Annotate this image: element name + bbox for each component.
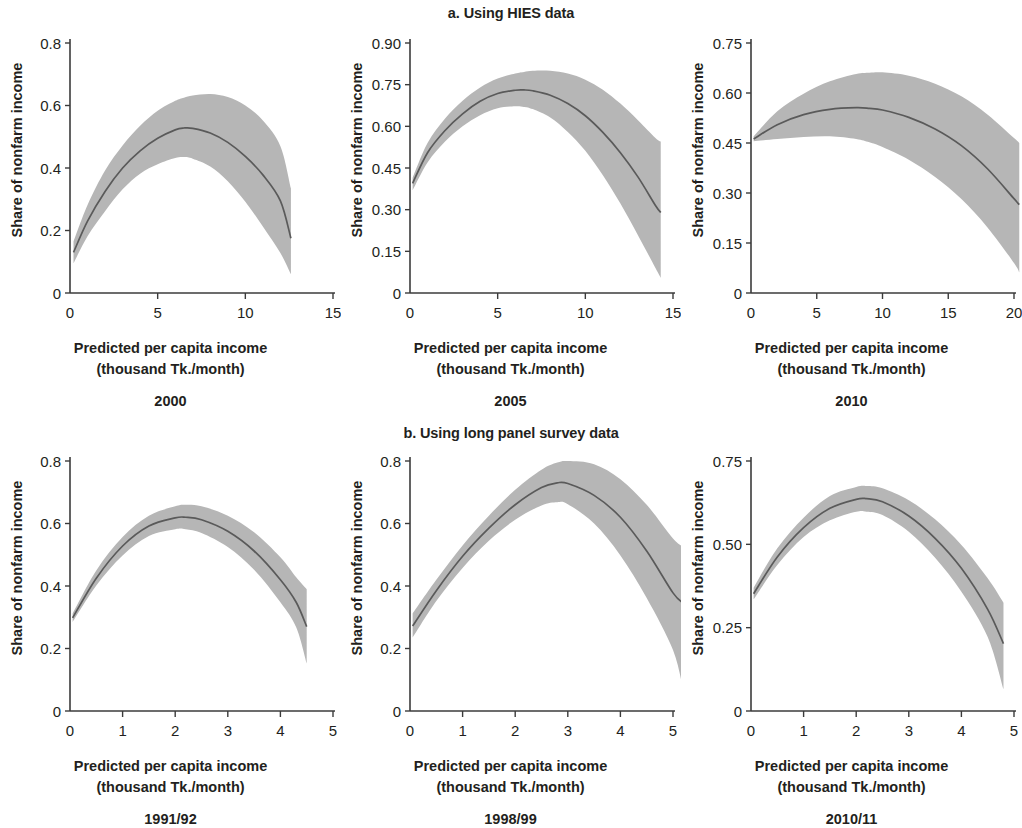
- y-tick-label: 0.60: [713, 85, 742, 102]
- x-tick-label: 5: [669, 722, 677, 739]
- chart-panel-1991-92: 00.20.40.60.8012345Share of nonfarm inco…: [0, 443, 341, 828]
- y-tick-label: 0.25: [713, 619, 742, 636]
- y-tick-label: 0.45: [713, 135, 742, 152]
- x-tick-label: 5: [813, 304, 821, 321]
- x-axis-title-line2: (thousand Tk./month): [0, 777, 341, 798]
- x-tick-label: 5: [329, 722, 337, 739]
- confidence-interval-band: [754, 486, 1004, 690]
- x-axis-title-line2: (thousand Tk./month): [340, 777, 681, 798]
- y-axis-title: Share of nonfarm income: [690, 63, 706, 238]
- panel-year-label: 1998/99: [340, 811, 681, 827]
- section-a-title: a. Using HIES data: [0, 5, 1022, 21]
- x-axis-title-line2: (thousand Tk./month): [681, 359, 1022, 380]
- y-tick-label: 0: [53, 703, 61, 720]
- y-tick-label: 0.4: [40, 578, 61, 595]
- x-axis-title: Predicted per capita income(thousand Tk.…: [681, 756, 1022, 798]
- panel-year-label: 2010: [681, 393, 1022, 409]
- y-tick-label: 0.4: [380, 578, 401, 595]
- x-tick-label: 5: [493, 304, 501, 321]
- panel-year-label: 1991/92: [0, 811, 341, 827]
- chart-svg: 00.20.40.60.8012345Share of nonfarm inco…: [0, 443, 341, 773]
- x-tick-label: 0: [406, 304, 414, 321]
- confidence-interval-band: [754, 72, 1020, 272]
- x-tick-label: 10: [577, 304, 594, 321]
- x-tick-label: 20: [1006, 304, 1022, 321]
- y-tick-label: 0.2: [40, 640, 61, 657]
- panel-year-label: 2000: [0, 393, 341, 409]
- panel-year-label: 2010/11: [681, 811, 1022, 827]
- y-tick-label: 0.45: [372, 160, 401, 177]
- chart-svg: 00.150.300.450.600.7505101520Share of no…: [681, 25, 1022, 355]
- y-axis-title: Share of nonfarm income: [349, 63, 365, 238]
- x-axis-title-line2: (thousand Tk./month): [0, 359, 341, 380]
- x-tick-label: 5: [153, 304, 161, 321]
- x-tick-label: 3: [905, 722, 913, 739]
- chart-panel-2010: 00.150.300.450.600.7505101520Share of no…: [681, 25, 1022, 425]
- chart-panel-2000: 00.20.40.60.8051015Share of nonfarm inco…: [0, 25, 341, 425]
- x-tick-label: 3: [224, 722, 232, 739]
- x-tick-label: 5: [1010, 722, 1018, 739]
- x-tick-label: 0: [747, 304, 755, 321]
- x-tick-label: 0: [66, 304, 74, 321]
- x-tick-label: 1: [799, 722, 807, 739]
- chart-svg: 00.250.500.75012345Share of nonfarm inco…: [681, 443, 1022, 773]
- y-tick-label: 0.4: [40, 160, 61, 177]
- x-tick-label: 2: [171, 722, 179, 739]
- x-axis-title-line1: Predicted per capita income: [0, 338, 341, 359]
- y-tick-label: 0.60: [372, 118, 401, 135]
- x-tick-label: 4: [957, 722, 965, 739]
- y-axis-title: Share of nonfarm income: [9, 481, 25, 656]
- x-tick-label: 15: [325, 304, 341, 321]
- x-tick-label: 15: [940, 304, 957, 321]
- x-axis-title-line1: Predicted per capita income: [681, 338, 1022, 359]
- y-tick-label: 0.30: [372, 201, 401, 218]
- y-axis-title: Share of nonfarm income: [349, 481, 365, 656]
- chart-svg: 00.20.40.60.8051015Share of nonfarm inco…: [0, 25, 341, 355]
- x-axis-title-line1: Predicted per capita income: [0, 756, 341, 777]
- y-tick-label: 0.6: [380, 515, 401, 532]
- y-tick-label: 0.15: [372, 243, 401, 260]
- chart-panel-1998-99: 00.20.40.60.8012345Share of nonfarm inco…: [340, 443, 681, 828]
- x-axis-title-line1: Predicted per capita income: [340, 338, 681, 359]
- x-axis-title-line2: (thousand Tk./month): [681, 777, 1022, 798]
- y-tick-label: 0.90: [372, 35, 401, 52]
- x-axis-title: Predicted per capita income(thousand Tk.…: [0, 338, 341, 380]
- y-tick-label: 0.50: [713, 536, 742, 553]
- y-tick-label: 0.2: [40, 222, 61, 239]
- confidence-interval-band: [74, 94, 291, 274]
- section-b-title: b. Using long panel survey data: [0, 425, 1022, 441]
- x-axis-title: Predicted per capita income(thousand Tk.…: [340, 338, 681, 380]
- y-tick-label: 0: [393, 285, 401, 302]
- y-tick-label: 0.6: [40, 515, 61, 532]
- y-tick-label: 0.6: [40, 97, 61, 114]
- x-tick-label: 2: [511, 722, 519, 739]
- x-axis-title: Predicted per capita income(thousand Tk.…: [0, 756, 341, 798]
- y-tick-label: 0: [734, 285, 742, 302]
- y-tick-label: 0: [393, 703, 401, 720]
- y-tick-label: 0.75: [372, 76, 401, 93]
- x-tick-label: 10: [874, 304, 891, 321]
- chart-panel-2010-11: 00.250.500.75012345Share of nonfarm inco…: [681, 443, 1022, 828]
- x-tick-label: 10: [237, 304, 254, 321]
- confidence-interval-band: [413, 461, 681, 692]
- x-axis-title-line1: Predicted per capita income: [340, 756, 681, 777]
- confidence-interval-band: [73, 505, 307, 664]
- y-tick-label: 0: [734, 703, 742, 720]
- x-tick-label: 0: [66, 722, 74, 739]
- x-tick-label: 1: [118, 722, 126, 739]
- x-axis-title-line1: Predicted per capita income: [681, 756, 1022, 777]
- confidence-interval-band: [413, 71, 661, 278]
- x-tick-label: 0: [406, 722, 414, 739]
- y-axis-title: Share of nonfarm income: [9, 63, 25, 238]
- x-tick-label: 4: [276, 722, 284, 739]
- chart-svg: 00.150.300.450.600.750.90051015Share of …: [340, 25, 681, 355]
- x-tick-label: 2: [852, 722, 860, 739]
- x-axis-title: Predicted per capita income(thousand Tk.…: [681, 338, 1022, 380]
- x-tick-label: 4: [616, 722, 624, 739]
- x-tick-label: 1: [458, 722, 466, 739]
- y-tick-label: 0.75: [713, 453, 742, 470]
- y-tick-label: 0.30: [713, 185, 742, 202]
- y-tick-label: 0.2: [380, 640, 401, 657]
- x-axis-title-line2: (thousand Tk./month): [340, 359, 681, 380]
